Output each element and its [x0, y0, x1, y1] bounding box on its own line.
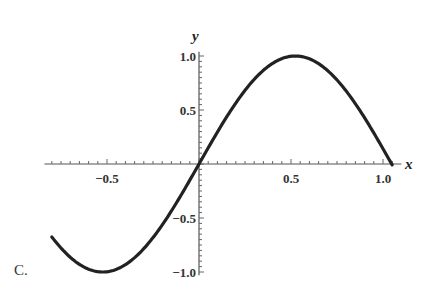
x-tick-label: 1.0	[375, 171, 391, 186]
y-tick-label: 0.5	[180, 103, 197, 118]
y-tick-label: −0.5	[172, 211, 196, 226]
x-tick-label: −0.5	[95, 171, 119, 186]
function-plot: −0.50.51.0−1.0−0.50.51.0 x y	[0, 0, 441, 298]
x-axis-label: x	[404, 156, 413, 172]
y-tick-label: 1.0	[180, 49, 196, 64]
y-tick-label: −1.0	[172, 265, 196, 280]
y-axis-label: y	[190, 28, 199, 44]
x-tick-label: 0.5	[283, 171, 300, 186]
figure-caption: C.	[14, 262, 28, 279]
